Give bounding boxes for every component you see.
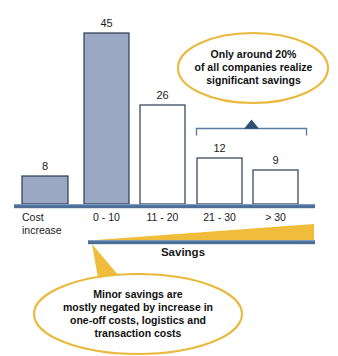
bar-21-30 [197, 158, 242, 204]
bracket-triangle-icon [244, 120, 259, 129]
bar-0-10 [84, 33, 129, 204]
callout-top-line2: of all companies realize [183, 61, 324, 74]
bar-cost-increase [22, 176, 68, 204]
savings-axis-bar-highlight [88, 240, 315, 241]
x-axis-title: Savings [133, 246, 233, 258]
callout-bottom-line4: transaction costs [36, 327, 240, 340]
x-tick-line2: increase [22, 224, 77, 237]
bar-chart-figure: 8 45 26 12 9 Cost increase 0 - 10 11 - 2… [0, 0, 338, 356]
x-tick-over-30: > 30 [250, 211, 301, 224]
bar-value-label: 8 [22, 160, 68, 172]
x-tick-cost-increase: Cost increase [13, 211, 77, 237]
callout-bottom-line1: Minor savings are [36, 288, 240, 301]
bar-11-20 [140, 105, 185, 204]
x-tick-0-10: 0 - 10 [81, 211, 132, 224]
callout-bottom-text: Minor savings are mostly negated by incr… [36, 288, 240, 340]
bar-over-30 [253, 170, 298, 204]
x-tick-line1: Cost [22, 211, 77, 224]
bar-value-label: 12 [197, 142, 242, 154]
callout-top-line1: Only around 20% [183, 48, 324, 61]
callout-bottom-line2: mostly negated by increase in [36, 301, 240, 314]
bar-value-label: 26 [140, 89, 185, 101]
callout-bottom-line3: one-off costs, logistics and [36, 314, 240, 327]
x-tick-21-30: 21 - 30 [194, 211, 245, 224]
x-axis-line-highlight [14, 204, 315, 205]
callout-top-text: Only around 20% of all companies realize… [183, 48, 324, 87]
bar-value-label: 9 [253, 154, 298, 166]
bar-value-label: 45 [84, 17, 129, 29]
bracket-indicator [197, 129, 307, 136]
callout-top-line3: significant savings [183, 74, 324, 87]
savings-wedge [89, 224, 314, 241]
x-tick-11-20: 11 - 20 [137, 211, 188, 224]
